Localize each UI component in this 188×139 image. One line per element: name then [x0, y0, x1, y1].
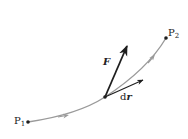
- label-force-text: F: [103, 56, 110, 67]
- curve-path: [28, 38, 166, 122]
- label-p2: P2: [168, 28, 179, 40]
- label-p1-sub: 1: [21, 120, 25, 128]
- label-p1: P1: [14, 116, 25, 128]
- point-p1: [26, 120, 30, 124]
- label-displacement-r: r: [126, 91, 131, 102]
- point-origin: [103, 95, 107, 99]
- work-path-diagram: P1 P2 F dr: [0, 0, 188, 139]
- diagram-canvas: [0, 0, 188, 139]
- label-p2-text: P: [168, 27, 175, 38]
- label-force: F: [103, 57, 110, 67]
- label-p2-sub: 2: [175, 32, 179, 40]
- label-p1-text: P: [14, 115, 21, 126]
- label-displacement: dr: [120, 92, 132, 102]
